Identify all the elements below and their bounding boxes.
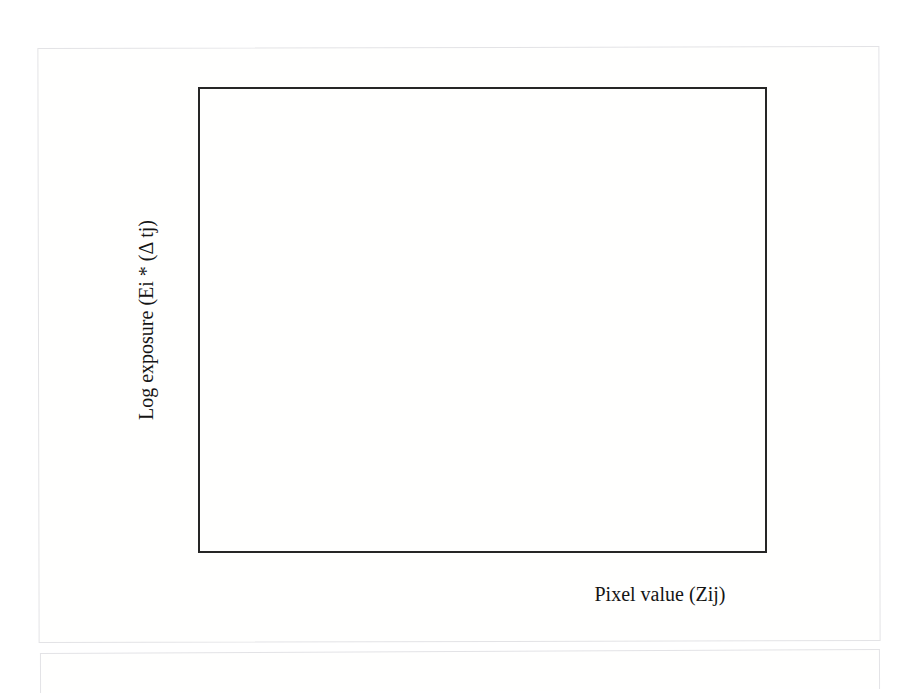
plot-axes [199,88,766,552]
x-axis-title: Pixel value (Zij) [594,583,725,606]
y-axis-title: Log exposure (Ei * (Δ tj) [135,220,158,420]
plot-frame [199,88,766,552]
